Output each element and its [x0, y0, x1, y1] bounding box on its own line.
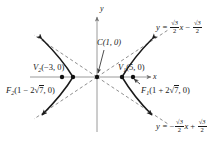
focus-2-expr-prefix: (1 − 2 [14, 85, 34, 95]
hyperbola-figure: y x C(1, 0) V1(5, 0) V2(−3, 0) F1(1 + 2√… [0, 0, 222, 142]
eq2-variable: x [184, 121, 188, 131]
y-axis-label: y [100, 5, 104, 13]
focus-1-label: F1(1 + 2√7, 0) [141, 85, 190, 96]
point-focus-2 [60, 75, 64, 79]
eq2-const-fraction: √32 [198, 119, 207, 134]
point-vertex-2 [71, 75, 75, 79]
point-vertex-1 [120, 75, 124, 79]
vertex-1-label: V1(5, 0) [118, 63, 145, 73]
plotted-points [60, 75, 135, 79]
sqrt-icon: √7 [170, 85, 179, 95]
eq2-slope-fraction: √32 [175, 119, 184, 134]
vertex-2-coords: (−3, 0) [41, 62, 64, 72]
focus-1-expr-prefix: (1 + 2 [149, 85, 169, 95]
center-label: C(1, 0) [97, 38, 121, 47]
eq2-slope-denominator: 2 [175, 127, 184, 134]
eq1-slope-fraction: √32 [170, 20, 179, 35]
asymptote-upper-right-equation: y = √32x − √32 [156, 20, 202, 35]
focus-2-label: F2(1 − 2√7, 0) [6, 85, 55, 96]
asymptote-lower-right-equation: y = −√32x + √32 [156, 119, 207, 134]
focus-2-expr-suffix: , 0) [44, 85, 55, 95]
sqrt-icon: √7 [35, 85, 44, 95]
vertex-1-coords: (5, 0) [126, 62, 144, 72]
eq1-variable: x [180, 22, 184, 32]
focus-1-expr-suffix: , 0) [179, 85, 190, 95]
center-label-text: C(1, 0) [97, 37, 121, 47]
vertex-2-label: V2(−3, 0) [33, 63, 64, 73]
eq1-slope-denominator: 2 [170, 28, 179, 35]
eq1-const-denominator: 2 [193, 28, 202, 35]
x-axis-label: x [153, 73, 157, 81]
eq2-operator: + [190, 121, 195, 131]
eq1-lead: y = [156, 22, 168, 32]
point-focus-1 [131, 75, 135, 79]
focus1-pointer-arrow [134, 79, 140, 84]
point-center [95, 75, 99, 79]
center-pointer-arrow [98, 50, 104, 73]
eq2-const-denominator: 2 [198, 127, 207, 134]
eq2-slope-sign: − [170, 121, 175, 131]
eq1-operator: − [186, 22, 191, 32]
eq2-lead: y = [156, 121, 168, 131]
eq1-const-fraction: √32 [193, 20, 202, 35]
